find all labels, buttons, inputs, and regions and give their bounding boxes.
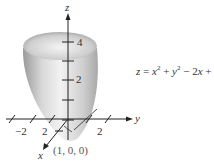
x-tick-2: 2	[42, 126, 48, 137]
y-tick-neg2: −2	[15, 126, 27, 137]
paraboloid-surface	[23, 48, 98, 141]
x-axis-label: x	[38, 150, 43, 161]
y-axis-label: y	[135, 113, 140, 124]
equation-label: z = x2 + y2 − 2x + 1	[136, 64, 214, 77]
y-tick-2: 2	[97, 126, 103, 137]
paraboloid-rim	[23, 32, 97, 60]
vertex-label: (1, 0, 0)	[53, 145, 88, 156]
paraboloid-diagram	[0, 0, 214, 161]
z-tick-4: 4	[77, 37, 83, 48]
z-axis-label: z	[65, 2, 69, 13]
z-tick-2: 2	[76, 74, 82, 85]
